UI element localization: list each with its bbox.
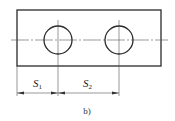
dimension-s1-label: S1 — [33, 77, 43, 91]
arrowhead-icon — [112, 92, 119, 95]
figure-caption: b) — [83, 106, 91, 116]
arrowhead-icon — [58, 92, 65, 95]
plate-with-two-holes-diagram: S1 S2 b) — [0, 0, 175, 121]
dimension-s1: S1 — [17, 77, 58, 94]
arrowhead-icon — [17, 92, 24, 95]
plate-outline — [17, 10, 161, 66]
dimension-s2: S2 — [58, 77, 119, 94]
arrowhead-icon — [51, 92, 58, 95]
dimension-s2-label: S2 — [83, 77, 93, 91]
